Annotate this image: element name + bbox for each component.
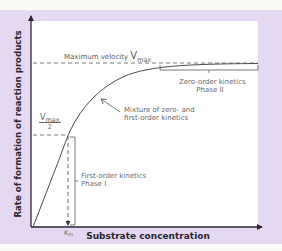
x-axis-label: Substrate concentration: [86, 231, 210, 241]
first-order-bracket: [70, 137, 75, 225]
mixture-arrow: [101, 99, 120, 112]
vmax-label: Maximum velocity Vmax: [64, 52, 151, 61]
first-order-label: First-order kinetics Phase I: [81, 172, 146, 188]
km-label: Km: [64, 229, 73, 237]
y-axis-label: Rate of formation of reaction products: [13, 30, 23, 217]
half-vmax-label: Vmax 2: [39, 114, 61, 131]
mixture-label: Mixture of zero- and first-order kinetic…: [124, 106, 195, 122]
zero-order-label: Zero-order kinetics Phase II: [179, 78, 241, 94]
